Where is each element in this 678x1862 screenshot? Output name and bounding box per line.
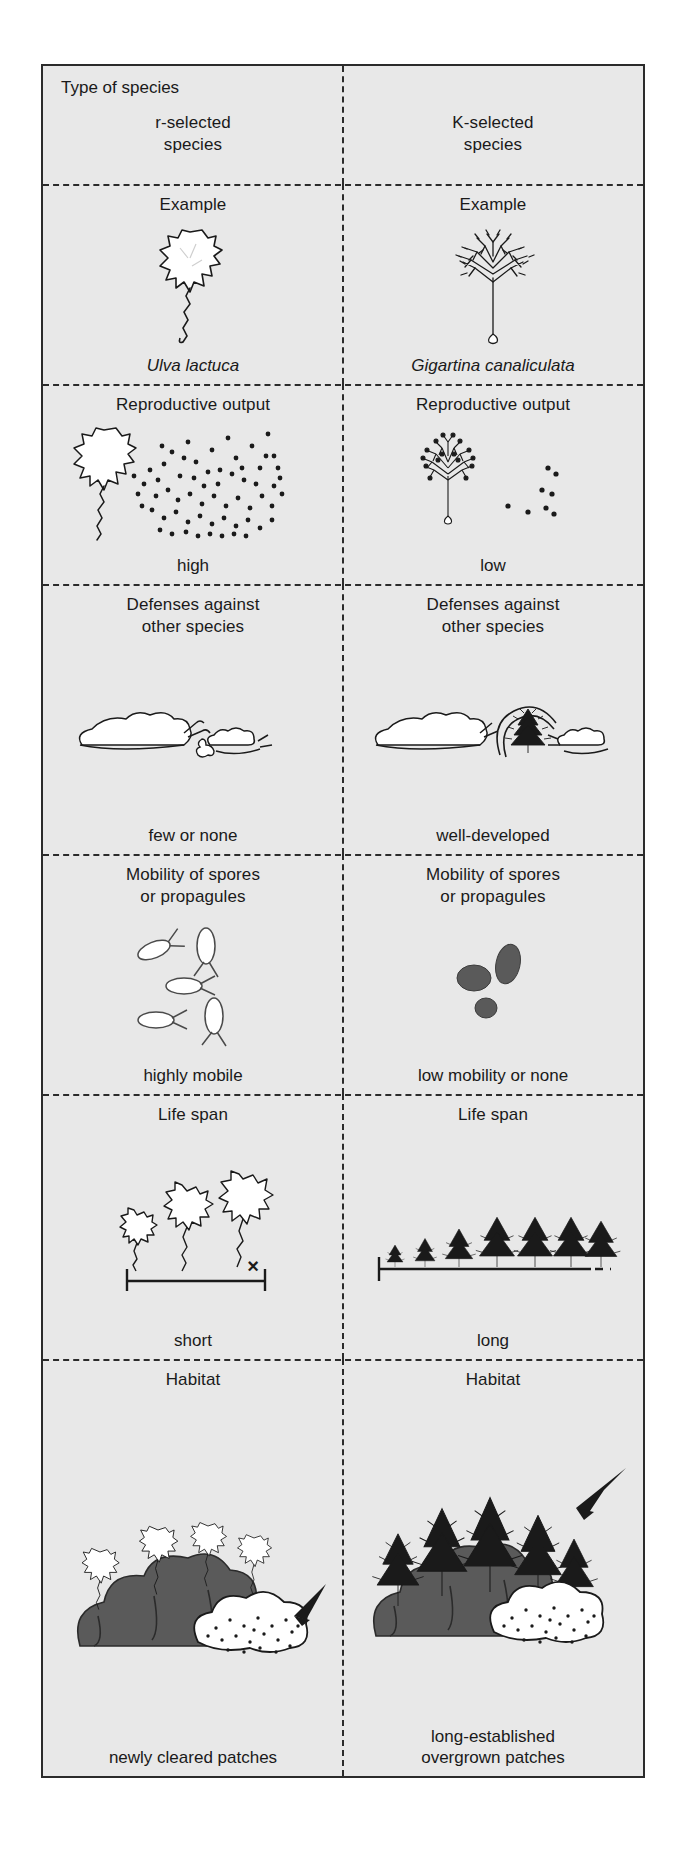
habitat-description-k: long-established overgrown patches	[421, 1720, 565, 1768]
cell-mobility-k: Mobility of spores or propagules low mob…	[343, 854, 643, 1094]
cell-example-r: Example Ulva lactuca	[43, 184, 343, 384]
cell-reproductive-output-r: Reproductive output	[43, 384, 343, 584]
reproductive-output-level-k: low	[480, 549, 506, 576]
column-header-r-selected: r-selected species	[43, 66, 343, 184]
column-title-r-selected: r-selected species	[155, 112, 231, 156]
mobility-level-k: low mobility or none	[418, 1059, 568, 1086]
habitat-description-r: newly cleared patches	[109, 1741, 277, 1768]
defenses-level-k: well-developed	[436, 819, 549, 846]
defenses-level-r: few or none	[149, 819, 238, 846]
cell-header: Habitat	[466, 1369, 521, 1391]
figure-header-row: Type of species r-selected species K-sel…	[43, 66, 643, 184]
cell-header: Habitat	[166, 1369, 221, 1391]
cell-header: Life span	[458, 1104, 528, 1126]
cell-life-span-k: Life span	[343, 1094, 643, 1359]
algae-with-many-spores-icon	[49, 416, 337, 549]
cell-mobility-r: Mobility of spores or propagules	[43, 854, 343, 1094]
cell-header: Defenses against other species	[127, 594, 260, 638]
cell-header: Reproductive output	[416, 394, 570, 416]
reproductive-output-level-r: high	[177, 549, 209, 576]
grazing-snails-eating-algae-icon	[49, 638, 337, 819]
row-reproductive-output: Reproductive output	[43, 384, 643, 584]
cell-reproductive-output-k: Reproductive output	[343, 384, 643, 584]
protected-algae-with-barrier-icon	[349, 638, 637, 819]
row-example: Example Ulva lactuca Example	[43, 184, 643, 384]
non-motile-propagules-icon	[349, 908, 637, 1059]
species-name-k: Gigartina canaliculata	[411, 352, 574, 376]
cell-habitat-k: Habitat	[343, 1359, 643, 1776]
cell-header: Life span	[158, 1104, 228, 1126]
cell-header: Example	[160, 194, 227, 216]
growing-algae-timeline-icon: ×	[49, 1126, 337, 1324]
life-span-level-k: long	[477, 1324, 509, 1351]
species-name-r: Ulva lactuca	[147, 352, 240, 376]
r-vs-k-selection-comparison-figure: Type of species r-selected species K-sel…	[41, 64, 645, 1778]
cell-life-span-r: Life span ×	[43, 1094, 343, 1359]
cell-header: Reproductive output	[116, 394, 270, 416]
column-header-k-selected: K-selected species	[343, 66, 643, 184]
algae-patch-with-cleared-area-icon	[49, 1391, 337, 1741]
cell-header: Defenses against other species	[427, 594, 560, 638]
algae-with-few-spores-icon	[349, 416, 637, 549]
cell-defenses-k: Defenses against other species	[343, 584, 643, 854]
cell-header: Example	[460, 194, 527, 216]
mobility-level-r: highly mobile	[143, 1059, 242, 1086]
cell-habitat-r: Habitat	[43, 1359, 343, 1776]
column-title-k-selected: K-selected species	[452, 112, 533, 156]
tree-row-timeline-icon	[349, 1126, 637, 1324]
row-life-span: Life span ×	[43, 1094, 643, 1359]
cell-example-k: Example Gigartina canaliculata	[343, 184, 643, 384]
flagellated-spores-icon	[49, 908, 337, 1059]
forested-overgrown-patch-icon	[349, 1391, 637, 1720]
cell-header: Mobility of spores or propagules	[126, 864, 260, 908]
row-defenses: Defenses against other species	[43, 584, 643, 854]
row-mobility: Mobility of spores or propagules	[43, 854, 643, 1094]
cell-header: Mobility of spores or propagules	[426, 864, 560, 908]
branching-red-algae-icon	[349, 216, 637, 352]
death-marker: ×	[247, 1255, 259, 1277]
row-habitat: Habitat	[43, 1359, 643, 1776]
arrow-icon	[576, 1468, 626, 1520]
sea-lettuce-algae-icon	[49, 216, 337, 352]
cell-defenses-r: Defenses against other species	[43, 584, 343, 854]
life-span-level-r: short	[174, 1324, 212, 1351]
